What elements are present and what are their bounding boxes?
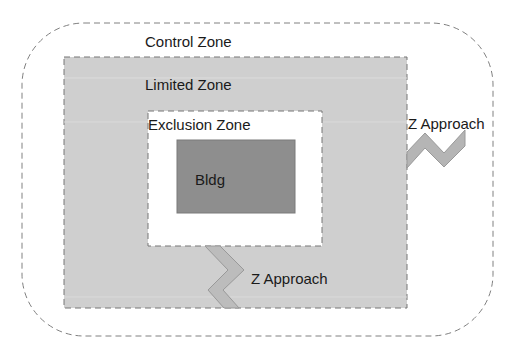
control-zone-label: Control Zone <box>145 34 232 49</box>
building-label: Bldg <box>195 172 225 187</box>
limited-zone-label: Limited Zone <box>145 77 232 92</box>
z-approach-bottom-label: Z Approach <box>251 271 328 286</box>
exclusion-zone-label: Exclusion Zone <box>148 117 251 132</box>
zone-diagram: Control Zone Limited Zone Exclusion Zone… <box>0 0 512 355</box>
z-approach-right-label: Z Approach <box>408 116 485 131</box>
